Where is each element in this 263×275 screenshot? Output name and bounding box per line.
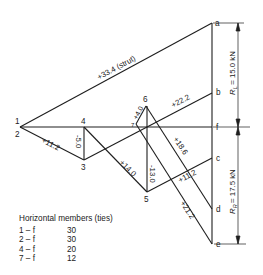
node-label-5: 5: [144, 195, 149, 204]
member-4-5: [84, 127, 147, 192]
legend-row: 4 – f20: [19, 245, 113, 255]
node-label-2: 2: [15, 130, 20, 139]
label-4-5: +14.0: [118, 158, 139, 179]
member-1-a: [20, 23, 212, 127]
node-label-3: 3: [81, 163, 86, 172]
node-label-a: a: [215, 19, 220, 28]
node-label-f: f: [216, 123, 219, 132]
label-1-a: +33.4 (strut): [96, 53, 138, 81]
label-7-e: +21.2: [178, 199, 196, 220]
node-label-c: c: [216, 154, 220, 163]
label-6-b: +22.2: [170, 93, 192, 110]
label-2-3: +11.2: [40, 136, 61, 153]
label-6-d: +18.6: [171, 135, 189, 156]
horizontal-members-legend: Horizontal members (ties) 1 – f30 2 – f3…: [19, 214, 113, 264]
legend-row: 1 – f30: [19, 226, 113, 236]
member-force-labels: +33.4 (strut) +22.2 +4.0 +11.2 -5.0 +14.…: [40, 53, 198, 220]
node-label-6: 6: [143, 95, 148, 104]
node-label-e: e: [216, 240, 221, 249]
node-label-1: 1: [15, 117, 20, 126]
node-label-4: 4: [81, 117, 86, 126]
legend-title: Horizontal members (ties): [19, 214, 113, 224]
legend-row: 7 – f12: [19, 254, 113, 264]
label-3-4: -5.0: [74, 135, 83, 149]
node-label-d: d: [216, 205, 221, 214]
node-label-b: b: [216, 88, 221, 97]
reaction-left-label: RL= 15.0 kN: [228, 51, 238, 95]
label-5-6: -13.0: [148, 165, 157, 183]
reaction-right-label: RR= 17.5 kN: [228, 169, 238, 214]
member-6-d: [146, 106, 212, 209]
legend-row: 2 – f30: [19, 235, 113, 245]
